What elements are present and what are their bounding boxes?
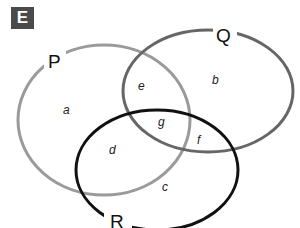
set-q-ellipse: [123, 30, 293, 152]
region-d-label: d: [109, 143, 116, 157]
set-p-label: P: [48, 51, 61, 72]
region-b-label: b: [212, 73, 219, 87]
region-f-label: f: [197, 133, 202, 147]
set-q-label: Q: [216, 25, 231, 46]
region-e-label: e: [138, 79, 145, 93]
venn-diagram: P Q R a b c d e f g: [0, 0, 300, 228]
region-c-label: c: [162, 180, 168, 194]
set-r-ellipse: [76, 110, 238, 228]
set-r-label: R: [110, 211, 124, 228]
region-g-label: g: [158, 115, 165, 129]
region-a-label: a: [63, 103, 70, 117]
